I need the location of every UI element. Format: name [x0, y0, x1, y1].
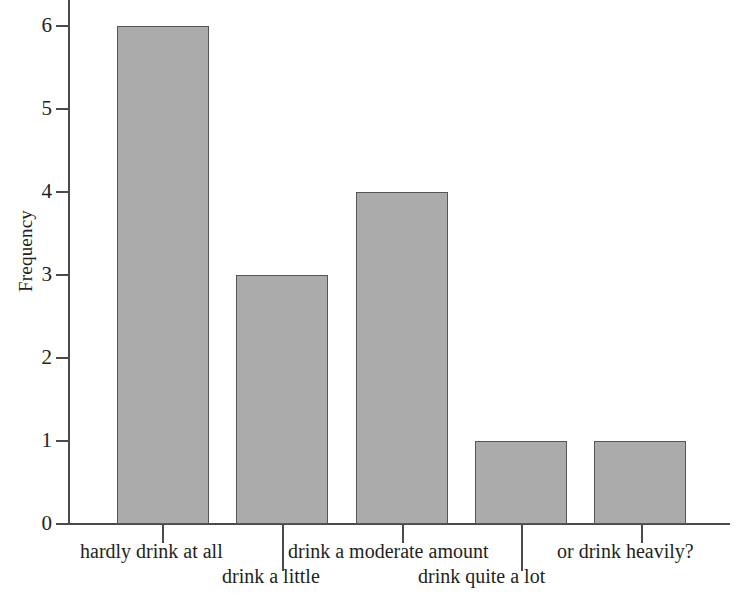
x-axis-label-3: drink quite a lot — [418, 565, 545, 587]
y-tick-label: 1 — [22, 430, 52, 451]
y-tick-mark — [56, 25, 68, 27]
bar — [475, 441, 567, 524]
y-tick-label: 3 — [22, 264, 52, 285]
y-tick-mark — [56, 108, 68, 110]
bar — [236, 275, 328, 524]
y-tick-label: 2 — [22, 347, 52, 368]
y-axis-title: Frequency — [15, 181, 37, 321]
y-tick-label: 0 — [22, 513, 52, 534]
x-axis-label-1: drink a little — [222, 565, 320, 587]
bar — [594, 441, 686, 524]
y-tick-label: 5 — [22, 98, 52, 119]
y-tick-mark — [56, 440, 68, 442]
bar — [117, 26, 209, 524]
x-axis-label-4: or drink heavily? — [557, 540, 694, 562]
bar — [356, 192, 448, 524]
y-axis-line — [68, 0, 70, 525]
x-axis-label-0: hardly drink at all — [80, 540, 223, 562]
y-tick-label: 6 — [22, 15, 52, 36]
y-tick-mark — [56, 191, 68, 193]
y-tick-mark — [56, 357, 68, 359]
y-tick-mark — [56, 523, 68, 525]
x-axis-label-2: drink a moderate amount — [288, 540, 489, 562]
y-tick-mark — [56, 274, 68, 276]
bar-chart: Frequency 0 1 2 3 4 5 6 hardly drink at … — [0, 0, 744, 613]
y-tick-label: 4 — [22, 181, 52, 202]
